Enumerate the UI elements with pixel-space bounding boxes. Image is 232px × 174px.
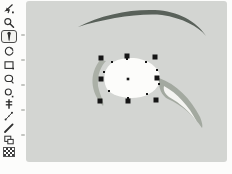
vertex-point[interactable] <box>158 83 160 85</box>
selection-handle[interactable] <box>154 98 159 103</box>
rotate-tool-button[interactable] <box>1 44 17 57</box>
selection-handle[interactable] <box>99 56 104 61</box>
ellipse-icon <box>3 73 15 85</box>
selection-handle[interactable] <box>126 99 131 104</box>
eyedropper-icon <box>3 31 15 43</box>
selection-handle[interactable] <box>125 54 130 59</box>
polyline-icon <box>3 110 15 122</box>
vertex-point[interactable] <box>111 61 113 63</box>
vertex-point[interactable] <box>145 61 147 63</box>
palette-divider <box>20 0 26 174</box>
divider-tick <box>21 59 25 61</box>
vertex-point[interactable] <box>156 69 158 71</box>
ellipse-tool-button[interactable] <box>1 72 17 85</box>
vertex-point[interactable] <box>126 58 128 60</box>
divider-tick <box>21 84 25 86</box>
select-arrow-tool-button[interactable] <box>1 2 17 15</box>
select-arrow-icon <box>3 3 15 15</box>
eyedropper-tool-button[interactable] <box>1 30 17 43</box>
rotate-icon <box>3 45 15 57</box>
line-tool-button[interactable] <box>1 121 17 134</box>
rectangle-icon <box>3 59 15 71</box>
duplicate-tool-button[interactable] <box>1 134 17 147</box>
text-icon <box>3 98 15 110</box>
selection-center-point[interactable] <box>127 78 130 81</box>
divider-tick <box>21 109 25 111</box>
vertex-point[interactable] <box>103 71 105 73</box>
vertex-point[interactable] <box>146 93 148 95</box>
vertex-point[interactable] <box>108 90 110 92</box>
rectangle-tool-button[interactable] <box>1 58 17 71</box>
zoom-tool-button[interactable] <box>1 16 17 29</box>
selection-handle[interactable] <box>99 77 104 82</box>
divider-tick <box>21 34 25 36</box>
selection-handle[interactable] <box>155 76 160 81</box>
duplicate-icon <box>3 134 15 146</box>
canvas-layer <box>0 0 232 174</box>
tool-palette <box>0 0 26 174</box>
zoom-icon <box>3 17 15 29</box>
drawing-app-window <box>0 0 232 174</box>
line-icon <box>3 122 15 134</box>
pattern-tool-button[interactable] <box>1 146 17 159</box>
pattern-icon <box>3 147 15 157</box>
selection-handle[interactable] <box>98 99 103 104</box>
selection-handle[interactable] <box>153 55 158 60</box>
divider-tick <box>21 134 25 136</box>
vertex-point[interactable] <box>127 97 129 99</box>
